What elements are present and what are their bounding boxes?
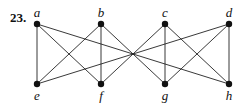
node-a: [34, 21, 40, 27]
graph-diagram: 23. abcdefgh: [0, 0, 247, 109]
node-e: [34, 81, 40, 87]
edges: [37, 24, 229, 84]
node-label-c: c: [162, 5, 168, 20]
node-label-g: g: [162, 88, 169, 103]
node-g: [162, 81, 168, 87]
node-label-h: h: [226, 88, 233, 103]
node-label-b: b: [98, 5, 105, 20]
node-label-a: a: [34, 5, 41, 20]
node-label-d: d: [226, 5, 233, 20]
node-h: [226, 81, 232, 87]
node-f: [98, 81, 104, 87]
node-c: [162, 21, 168, 27]
node-label-f: f: [99, 88, 105, 103]
node-b: [98, 21, 104, 27]
node-d: [226, 21, 232, 27]
problem-number: 23.: [10, 10, 26, 25]
node-label-e: e: [34, 88, 40, 103]
